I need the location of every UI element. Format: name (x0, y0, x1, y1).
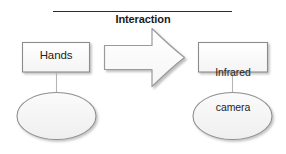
hands-box[interactable] (23, 43, 90, 73)
diagram-graphics (0, 0, 286, 154)
infrared-camera-box[interactable] (199, 43, 268, 73)
camera-ellipse[interactable] (193, 93, 272, 140)
interaction-arrow[interactable] (105, 29, 185, 87)
diagram-canvas: Interaction Hands Infrared camera (0, 0, 286, 154)
hands-ellipse[interactable] (17, 93, 96, 140)
